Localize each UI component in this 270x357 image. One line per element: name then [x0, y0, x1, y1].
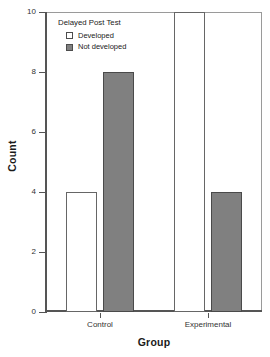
legend-title: Delayed Post Test [58, 19, 126, 27]
y-tick-label: 4 [32, 188, 36, 196]
bar [174, 12, 205, 312]
y-axis-title: Count [6, 121, 18, 191]
legend-label-not-developed: Not developed [78, 43, 126, 51]
legend-item-developed: Developed [66, 32, 126, 40]
y-tick-label: 2 [32, 248, 36, 256]
x-tick-mark [100, 313, 101, 318]
legend-swatch-developed-icon [66, 32, 73, 39]
bars-layer [46, 12, 262, 312]
legend-label-developed: Developed [78, 32, 114, 40]
bar [103, 72, 134, 312]
x-tick-mark [208, 313, 209, 318]
x-category-label: Experimental [185, 320, 232, 329]
x-axis-title: Group [46, 336, 262, 348]
y-tick-label: 6 [32, 128, 36, 136]
bar [211, 192, 242, 312]
y-tick-label: 10 [27, 8, 36, 16]
legend: Delayed Post Test Developed Not develope… [58, 19, 126, 55]
x-category-label: Control [87, 320, 113, 329]
legend-item-not-developed: Not developed [66, 43, 126, 51]
legend-swatch-not-developed-icon [66, 44, 73, 51]
y-tick-label: 0 [32, 308, 36, 316]
bar-chart: Count 0246810 Delayed Post Test Develope… [0, 0, 270, 357]
y-tick-label: 8 [32, 68, 36, 76]
bar [66, 192, 97, 312]
